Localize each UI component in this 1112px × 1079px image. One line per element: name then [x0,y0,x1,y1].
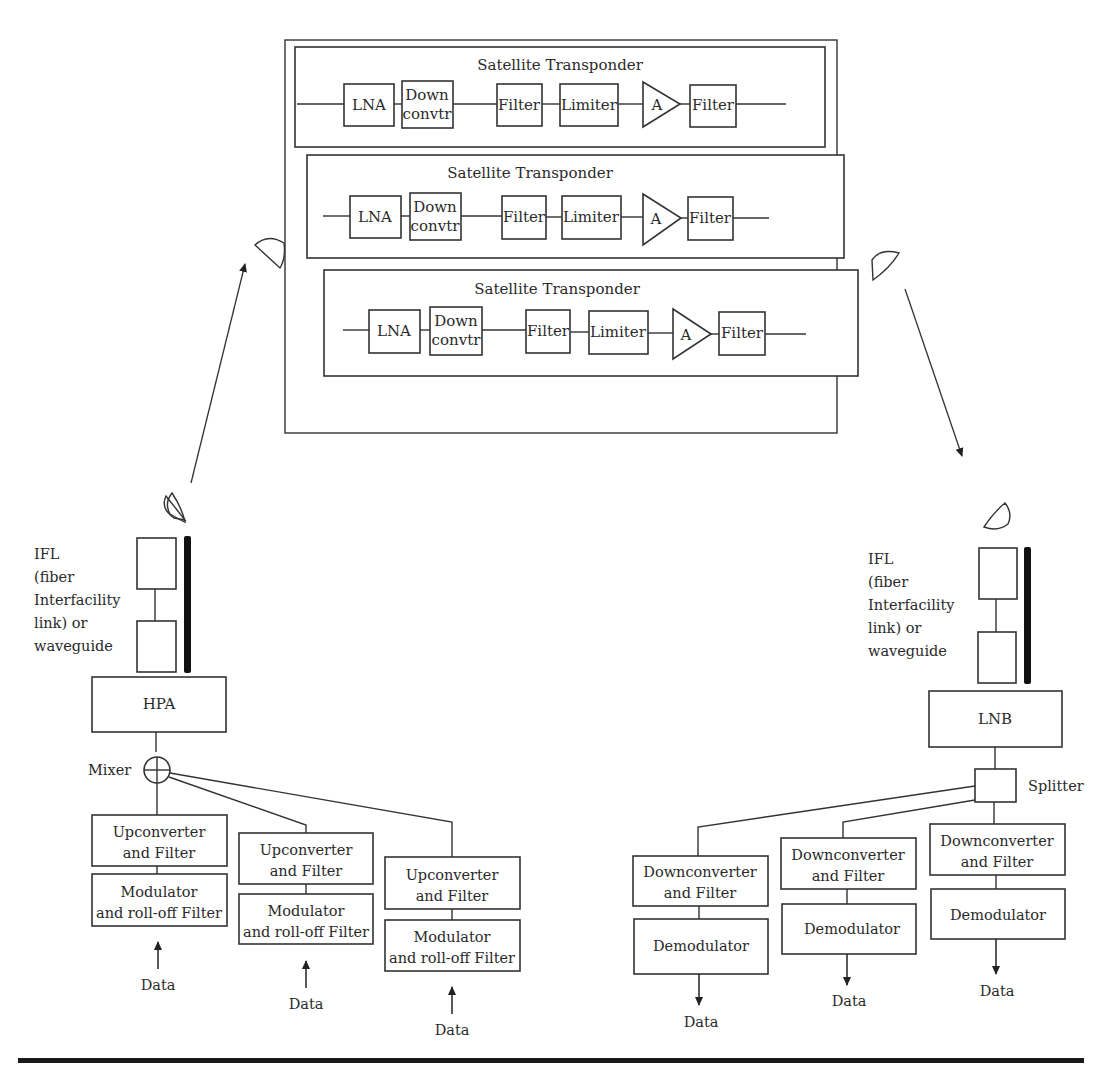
svg-text:Upconverter: Upconverter [113,824,206,840]
svg-text:Data: Data [832,993,867,1009]
svg-text:and roll-off Filter: and roll-off Filter [389,950,515,966]
mixer-icon [144,757,170,783]
bottom-rule [18,1058,1084,1063]
ifl-lower-box [137,621,176,672]
svg-text:and roll-off Filter: and roll-off Filter [243,924,369,940]
waveguide-bar [1024,547,1031,684]
svg-text:Down: Down [405,86,449,104]
svg-text:Downconverter: Downconverter [940,833,1053,849]
svg-text:Data: Data [141,977,176,993]
satellite-rx-antenna-icon [255,238,285,268]
downlink-chain-3: Downconverter and Filter Demodulator Dat… [930,824,1065,999]
svg-text:LNA: LNA [352,96,386,114]
svg-text:Filter: Filter [692,96,735,114]
svg-text:Limiter: Limiter [561,96,618,114]
transponder-title: Satellite Transponder [477,56,643,74]
svg-text:Modulator: Modulator [268,903,345,919]
svg-text:Filter: Filter [503,208,546,226]
svg-text:Interfacility: Interfacility [868,597,955,613]
svg-text:and roll-off Filter: and roll-off Filter [96,905,222,921]
downlink-arrow [905,289,962,456]
downlink-chain-1: Downconverter and Filter Demodulator Dat… [633,856,768,1030]
downlink-station: IFL (fiber Interfacility link) or wavegu… [633,503,1084,1030]
satellite-tx-antenna-icon [872,252,899,280]
transponder-3: Satellite Transponder LNA Down convtr Fi… [324,270,858,376]
svg-text:Data: Data [980,983,1015,999]
svg-text:Downconverter: Downconverter [791,847,904,863]
ifl-upper-box [137,538,176,589]
svg-text:Filter: Filter [498,96,541,114]
svg-text:convtr: convtr [432,331,482,349]
transponder-2: Satellite Transponder LNA Down convtr Fi… [307,155,844,258]
waveguide-bar [184,536,191,673]
svg-text:HPA: HPA [143,695,176,713]
uplink-station: IFL (fiber Interfacility link) or wavegu… [34,493,520,1038]
svg-text:and Filter: and Filter [664,885,737,901]
mixer-label: Mixer [88,762,131,778]
svg-text:Interfacility: Interfacility [34,592,121,608]
svg-text:Down: Down [413,198,457,216]
svg-text:A: A [651,96,663,114]
downlink-dish-icon [984,503,1010,529]
svg-text:Demodulator: Demodulator [950,907,1046,923]
svg-text:IFL: IFL [868,551,894,567]
svg-text:LNA: LNA [358,208,392,226]
splitter-block [975,769,1016,802]
downlink-chain-2: Downconverter and Filter Demodulator Dat… [781,838,916,1009]
svg-text:and Filter: and Filter [270,863,343,879]
svg-text:Filter: Filter [527,322,570,340]
svg-text:Limiter: Limiter [590,323,647,341]
svg-text:and Filter: and Filter [961,854,1034,870]
svg-text:Upconverter: Upconverter [260,842,353,858]
svg-text:link) or: link) or [868,620,921,636]
svg-text:Data: Data [289,996,324,1012]
ifl-lower-box [978,632,1016,683]
svg-text:Filter: Filter [721,324,764,342]
svg-text:and Filter: and Filter [416,888,489,904]
svg-text:(fiber: (fiber [868,574,908,590]
svg-text:and Filter: and Filter [812,868,885,884]
satellite-link-diagram: Satellite Transponder LNA Down convtr Fi… [0,0,1112,1079]
uplink-chain-3: Upconverter and Filter Modulator and rol… [385,857,520,1038]
svg-text:waveguide: waveguide [868,643,947,659]
svg-text:and Filter: and Filter [123,845,196,861]
uplink-chain-1: Upconverter and Filter Modulator and rol… [92,815,227,993]
svg-text:convtr: convtr [411,217,461,235]
svg-text:Limiter: Limiter [563,208,620,226]
svg-text:LNB: LNB [978,710,1012,728]
transponder-1: Satellite Transponder LNA Down convtr Fi… [295,47,825,147]
svg-text:Down: Down [434,312,478,330]
svg-text:Demodulator: Demodulator [804,921,900,937]
ifl-label: IFL (fiber Interfacility link) or wavegu… [868,551,955,659]
svg-text:Modulator: Modulator [414,929,491,945]
svg-text:Demodulator: Demodulator [653,938,749,954]
svg-text:link) or: link) or [34,615,87,631]
transponder-title: Satellite Transponder [447,164,613,182]
ifl-label: IFL (fiber Interfacility link) or wavegu… [34,546,121,654]
svg-text:A: A [680,326,692,344]
splitter-label: Splitter [1028,778,1084,794]
svg-text:waveguide: waveguide [34,638,113,654]
svg-text:(fiber: (fiber [34,569,74,585]
svg-text:IFL: IFL [34,546,60,562]
svg-text:Upconverter: Upconverter [406,867,499,883]
svg-text:Modulator: Modulator [121,884,198,900]
svg-text:Filter: Filter [689,209,732,227]
uplink-arrow [191,264,245,483]
svg-text:LNA: LNA [377,322,411,340]
svg-text:Data: Data [435,1022,470,1038]
svg-text:convtr: convtr [403,105,453,123]
svg-text:Downconverter: Downconverter [643,864,756,880]
uplink-chain-2: Upconverter and Filter Modulator and rol… [239,833,373,1012]
ifl-upper-box [979,548,1017,599]
svg-text:A: A [650,210,662,228]
svg-text:Data: Data [684,1014,719,1030]
transponder-title: Satellite Transponder [474,280,640,298]
